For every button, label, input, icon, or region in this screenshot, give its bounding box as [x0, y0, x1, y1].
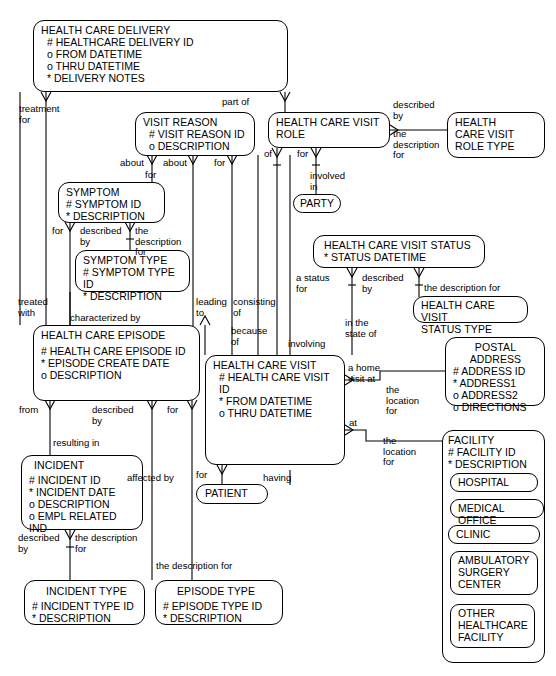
- label-the-description-for-episode: the description for: [156, 561, 232, 572]
- entity-title: HEALTH CARE VISIT ROLE: [276, 116, 383, 140]
- entity-attributes: # ADDRESS ID * ADDRESS1 o ADDRESS2 o DIR…: [453, 365, 538, 413]
- label-described-by-status: described by: [362, 273, 404, 294]
- entity-attributes: * STATUS DATETIME: [324, 251, 478, 263]
- label-the-description-for-role: the description for: [393, 129, 439, 161]
- entity-title: HEALTH CARE VISIT STATUS TYPE: [421, 299, 521, 335]
- entity-attributes: # FACILITY ID * DESCRIPTION: [448, 446, 539, 470]
- label-the-location-for-facility: the location for: [383, 436, 416, 468]
- label-the-description-for-status: the description for: [424, 283, 500, 294]
- entity-title: HEALTH CARE DELIVERY: [41, 24, 281, 36]
- entity-title: PATIENT: [205, 487, 248, 499]
- entity-attributes: # EPISODE TYPE ID * DESCRIPTION: [163, 600, 276, 624]
- entity-title: INCIDENT: [29, 459, 136, 471]
- label-consisting-of: consisting of: [233, 297, 276, 318]
- entity-title: EPISODE TYPE: [163, 585, 276, 597]
- subtype-medical-office[interactable]: MEDICAL OFFICE: [450, 499, 544, 518]
- label-for-patient: for: [196, 470, 207, 481]
- label-resulting-in: resulting in: [53, 438, 99, 449]
- entity-title: FACILITY: [448, 434, 539, 446]
- label-about-right: about: [163, 158, 187, 169]
- label-at-facility: at: [349, 418, 357, 429]
- label-of-role: of: [264, 149, 272, 160]
- label-described-by-role: described by: [393, 100, 435, 121]
- entity-patient[interactable]: PATIENT: [196, 484, 268, 504]
- label-for-symptom: for: [52, 226, 63, 237]
- subtype-ambulatory-surgery-center[interactable]: AMBULATORY SURGERY CENTER: [450, 551, 538, 595]
- entity-health-care-visit-status-type[interactable]: HEALTH CARE VISIT STATUS TYPE: [413, 296, 528, 323]
- entity-attributes: # HEALTH CARE VISIT ID * FROM DATETIME o…: [213, 371, 338, 419]
- entity-visit-reason[interactable]: VISIT REASON # VISIT REASON ID o DESCRIP…: [135, 112, 255, 156]
- entity-title: HEALTH CARE VISIT STATUS: [324, 239, 478, 251]
- entity-party[interactable]: PARTY: [293, 194, 341, 213]
- label-for-episode-type: for: [167, 405, 178, 416]
- label-described-by-incident: described by: [18, 533, 60, 554]
- er-diagram-canvas: HEALTH CARE DELIVERY # HEALTHCARE DELIVE…: [0, 0, 556, 676]
- entity-health-care-visit-role[interactable]: HEALTH CARE VISIT ROLE: [268, 112, 390, 148]
- entity-health-care-episode[interactable]: HEALTH CARE EPISODE # HEALTH CARE EPISOD…: [33, 325, 200, 401]
- entity-title: SYMPTOM: [66, 186, 158, 198]
- entity-postal-address[interactable]: POSTAL ADDRESS # ADDRESS ID * ADDRESS1 o…: [445, 337, 545, 406]
- subtype-hospital[interactable]: HOSPITAL: [450, 473, 538, 492]
- entity-health-care-visit-role-type[interactable]: HEALTH CARE VISIT ROLE TYPE: [447, 112, 545, 158]
- entity-attributes: # HEALTH CARE EPISODE ID * EPISODE CREAT…: [41, 345, 193, 381]
- subtype-clinic[interactable]: CLINIC: [448, 525, 540, 544]
- entity-health-care-visit[interactable]: HEALTH CARE VISIT # HEALTH CARE VISIT ID…: [205, 355, 345, 465]
- entity-health-care-delivery[interactable]: HEALTH CARE DELIVERY # HEALTHCARE DELIVE…: [33, 20, 288, 92]
- subtype-other-healthcare-facility[interactable]: OTHER HEALTHCARE FACILITY: [450, 604, 535, 648]
- label-leading-to: leading to: [196, 297, 227, 318]
- entity-attributes: # HEALTHCARE DELIVERY ID o FROM DATETIME…: [41, 36, 281, 84]
- label-part-of: part of: [222, 97, 249, 108]
- entity-attributes: # INCIDENT ID * INCIDENT DATE o DESCRIPT…: [29, 474, 136, 534]
- entity-attributes: # SYMPTOM TYPE ID * DESCRIPTION: [83, 266, 183, 302]
- label-treatment-for: treatment for: [19, 104, 60, 125]
- label-the-description-for-incident: the description for: [75, 533, 137, 554]
- label-a-home-visit-at: a home visit at: [348, 363, 380, 384]
- entity-title: POSTAL ADDRESS: [453, 341, 538, 365]
- label-having: having: [263, 473, 291, 484]
- entity-episode-type[interactable]: EPISODE TYPE # EPISODE TYPE ID * DESCRIP…: [155, 580, 283, 625]
- label-described-by-symptom: described by: [80, 226, 122, 247]
- entity-title: HEALTH CARE VISIT ROLE TYPE: [455, 116, 538, 152]
- entity-title: VISIT REASON: [143, 116, 248, 128]
- label-a-status-for: a status for: [296, 273, 330, 294]
- entity-title: PARTY: [300, 197, 334, 209]
- label-treated-with: treated with: [18, 297, 48, 318]
- label-affected-by: affected by: [127, 473, 174, 484]
- entity-health-care-visit-status[interactable]: HEALTH CARE VISIT STATUS * STATUS DATETI…: [313, 235, 485, 268]
- entity-attributes: # SYMPTOM ID * DESCRIPTION: [66, 198, 158, 222]
- label-about-left: about: [120, 158, 144, 169]
- entity-title: INCIDENT TYPE: [32, 585, 138, 597]
- label-the-description-for-symptom: the description for: [135, 226, 181, 258]
- label-for-role: for: [214, 158, 225, 169]
- entity-symptom[interactable]: SYMPTOM # SYMPTOM ID * DESCRIPTION: [58, 182, 165, 223]
- label-for-reason: for: [145, 170, 156, 181]
- entity-attributes: # INCIDENT TYPE ID * DESCRIPTION: [32, 600, 138, 624]
- label-because-of: because of: [231, 326, 267, 347]
- entity-incident-type[interactable]: INCIDENT TYPE # INCIDENT TYPE ID * DESCR…: [24, 580, 145, 625]
- label-in-the-state-of: in the state of: [345, 318, 376, 339]
- label-involving: involving: [288, 339, 325, 350]
- entity-attributes: # VISIT REASON ID o DESCRIPTION: [143, 128, 248, 152]
- entity-incident[interactable]: INCIDENT # INCIDENT ID * INCIDENT DATE o…: [21, 455, 143, 530]
- label-characterized-by: characterized by: [70, 313, 140, 324]
- label-involved-in: involved in: [310, 171, 345, 192]
- label-described-by-episode: described by: [92, 405, 134, 426]
- label-the-location-for-address: the location for: [386, 385, 419, 417]
- entity-title: HEALTH CARE EPISODE: [41, 329, 193, 341]
- label-from-incident: from: [19, 405, 38, 416]
- entity-title: HEALTH CARE VISIT: [213, 359, 338, 371]
- label-for-party: for: [297, 149, 308, 160]
